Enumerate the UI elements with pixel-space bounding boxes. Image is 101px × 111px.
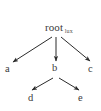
edge-b-e [59, 78, 79, 90]
tree-diagram-canvas: rootlux a b c d e [0, 0, 101, 111]
node-root: rootlux [45, 22, 71, 33]
edge-b-d [32, 78, 53, 90]
node-a: a [5, 64, 10, 75]
edge-root-a [13, 37, 52, 62]
node-root-label: root [45, 21, 63, 33]
node-c: c [88, 64, 93, 75]
node-e: e [78, 93, 83, 104]
tree-edges-group [0, 0, 101, 111]
node-d: d [28, 93, 33, 104]
node-b: b [52, 63, 57, 74]
edge-root-c [61, 37, 90, 61]
node-root-subscript: lux [65, 28, 73, 34]
